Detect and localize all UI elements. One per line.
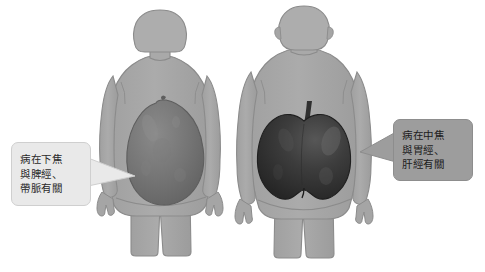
pear-callout-line-3: 帶脈有關 <box>20 181 62 196</box>
apple-callout-line-2: 與胃經、 <box>402 143 444 158</box>
apple-callout-line-3: 肝經有關 <box>402 157 444 172</box>
pear-shape-callout[interactable]: 病在下焦 與脾經、 帶脈有關 <box>11 142 91 206</box>
apple-callout-line-1: 病在中焦 <box>402 128 444 143</box>
diagram-canvas: 病在下焦 與脾經、 帶脈有關 病在中焦 與胃經、 肝經有關 <box>0 0 485 272</box>
pear-callout-line-1: 病在下焦 <box>20 152 62 167</box>
pear-callout-line-2: 與脾經、 <box>20 167 62 182</box>
apple-shape-callout[interactable]: 病在中焦 與胃經、 肝經有關 <box>393 119 473 181</box>
